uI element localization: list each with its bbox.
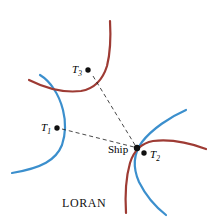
hyperbola-branch-blue-right	[135, 110, 186, 215]
hyperbola-branch-red-top	[29, 21, 110, 91]
label-t1-subscript: 1	[47, 127, 51, 136]
point-marker-t2	[141, 150, 146, 155]
label-ship: Ship	[108, 144, 128, 155]
loran-curves-svg	[0, 0, 214, 224]
label-t3: T3	[72, 64, 82, 78]
label-t3-subscript: 3	[78, 69, 82, 78]
dashed-line-t3-ship	[93, 76, 135, 145]
label-t1: T1	[41, 122, 51, 136]
point-marker-ship	[134, 145, 140, 151]
loran-diagram: T1 T2 T3 Ship LORAN	[0, 0, 214, 224]
label-t2-subscript: 2	[156, 154, 160, 163]
point-marker-t3	[85, 67, 90, 72]
figure-caption: LORAN	[62, 196, 106, 211]
point-marker-t1	[54, 125, 59, 130]
label-t2: T2	[150, 149, 160, 163]
